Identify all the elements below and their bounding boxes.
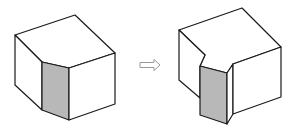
- figure-before: [15, 15, 115, 120]
- figure-after: [179, 8, 281, 124]
- after-shaded-notch-face: [200, 66, 227, 124]
- after-step-face: [227, 64, 233, 124]
- before-shaded-bevel-face: [42, 62, 69, 120]
- diagram-svg: [0, 0, 297, 133]
- transform-arrow-icon: [140, 60, 160, 71]
- diagram-canvas: [0, 0, 297, 133]
